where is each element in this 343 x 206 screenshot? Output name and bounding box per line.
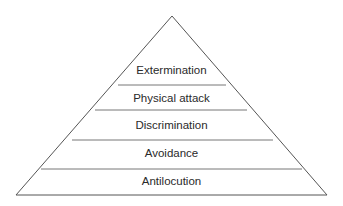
level-avoidance: Avoidance <box>0 146 343 160</box>
level-discrimination: Discrimination <box>0 118 343 132</box>
level-extermination: Extermination <box>0 63 343 77</box>
level-antilocution: Antilocution <box>0 174 343 188</box>
pyramid-outline <box>16 16 327 195</box>
level-physical-attack: Physical attack <box>0 91 343 105</box>
